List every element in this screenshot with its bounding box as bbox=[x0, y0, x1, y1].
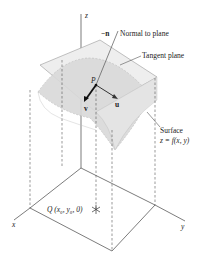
normal-label: Normal to plane bbox=[120, 29, 169, 38]
point-p-label: P bbox=[90, 76, 96, 85]
surface-leader bbox=[147, 112, 160, 127]
vector-v-label: v bbox=[84, 104, 88, 113]
tangent-plane-label: Tangent plane bbox=[142, 51, 185, 60]
x-axis bbox=[14, 208, 30, 220]
point-q-label: Q (x₀, y₀, 0) bbox=[47, 205, 83, 214]
vector-u-label: u bbox=[115, 100, 119, 109]
y-axis-label: y bbox=[180, 222, 185, 231]
y-axis bbox=[155, 205, 185, 221]
surface-equation: z = f(x, y) bbox=[159, 136, 190, 145]
surface-label: Surface bbox=[160, 126, 184, 135]
x-axis-label: x bbox=[11, 220, 16, 229]
tangent-plane-diagram: z x y −n Normal to plane Tangent plane P… bbox=[0, 0, 199, 257]
point-q-marker bbox=[92, 205, 100, 214]
neg-n-label: −n bbox=[101, 29, 110, 38]
z-axis-label: z bbox=[84, 11, 88, 20]
